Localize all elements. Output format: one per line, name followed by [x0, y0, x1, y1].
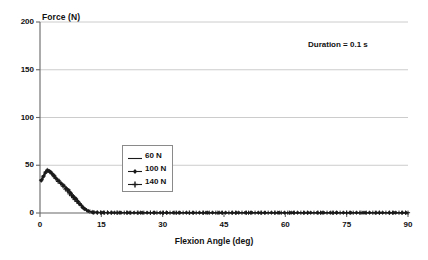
y-tick-label: 150: [6, 65, 34, 74]
x-tick-label: 75: [332, 220, 362, 229]
legend-label: 100 N: [145, 163, 166, 174]
y-tick-label: 100: [6, 113, 34, 122]
x-tick-label: 30: [148, 220, 178, 229]
legend-line-icon: [127, 150, 143, 161]
y-tick-label: 200: [6, 17, 34, 26]
legend-item: 100 N: [127, 162, 166, 175]
x-tick-label: 15: [86, 220, 116, 229]
x-axis-title: Flexion Angle (deg): [0, 236, 428, 246]
x-tick-label: 90: [393, 220, 423, 229]
y-tick-label: 50: [6, 160, 34, 169]
y-tick-label: 0: [6, 208, 34, 217]
x-tick-label: 0: [25, 220, 55, 229]
legend-label: 60 N: [145, 150, 162, 161]
legend-plus-icon: [127, 176, 143, 187]
x-tick-label: 45: [209, 220, 239, 229]
legend-diamond-icon: [127, 163, 143, 174]
x-tick-label: 60: [270, 220, 300, 229]
chart-legend: 60 N100 N140 N: [122, 145, 173, 192]
legend-item: 140 N: [127, 175, 166, 188]
legend-label: 140 N: [145, 176, 166, 187]
force-flexion-chart: Force (N) Duration = 0.1 s 050100150200 …: [0, 0, 428, 260]
legend-item: 60 N: [127, 149, 166, 162]
